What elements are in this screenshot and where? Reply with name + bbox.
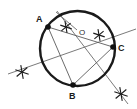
point-a-dot	[45, 24, 51, 30]
point-label-b: B	[69, 91, 76, 101]
point-c-dot	[110, 44, 116, 50]
point-label-c: C	[118, 43, 125, 53]
geometry-diagram: A B C O	[0, 0, 137, 109]
point-label-a: A	[36, 14, 43, 24]
point-b-dot	[70, 82, 76, 88]
center-label-o: O	[79, 28, 85, 37]
diagram-canvas: A B C O	[0, 0, 137, 109]
